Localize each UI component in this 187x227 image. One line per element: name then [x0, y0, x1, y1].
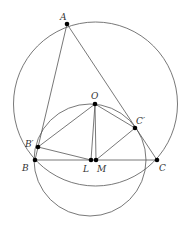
segment-A-C	[67, 24, 157, 160]
point-M	[94, 158, 99, 163]
point-C	[155, 158, 160, 163]
label-L: L	[82, 164, 89, 174]
point-Bp	[36, 145, 41, 150]
segment-O-L	[91, 104, 95, 160]
label-A: A	[59, 12, 67, 22]
labels-layer: AOB′C′BLMC	[21, 12, 166, 174]
label-C: C	[159, 163, 166, 173]
point-Cp	[133, 126, 138, 131]
point-O	[93, 102, 98, 107]
segment-Bp-L	[38, 147, 91, 160]
geometry-diagram: AOB′C′BLMC	[0, 0, 187, 227]
segment-O-Cp	[95, 104, 135, 128]
label-M: M	[96, 164, 107, 174]
label-O: O	[91, 91, 99, 101]
label-Bp: B′	[24, 139, 34, 149]
point-A	[65, 22, 70, 27]
point-L	[89, 158, 94, 163]
segment-O-M	[95, 104, 96, 160]
segment-Cp-M	[96, 128, 135, 160]
label-Cp: C′	[136, 116, 145, 126]
segment-A-B	[35, 24, 67, 160]
point-B	[33, 158, 38, 163]
label-B: B	[21, 163, 29, 173]
